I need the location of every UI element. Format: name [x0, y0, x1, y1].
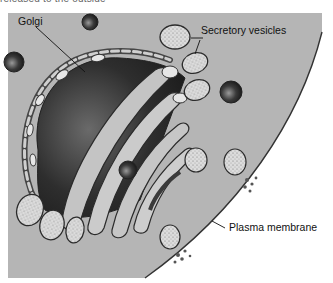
golgi-label: Golgi — [18, 15, 43, 27]
plasma-membrane-label: Plasma membrane — [229, 221, 317, 233]
golgi-illustration — [0, 0, 333, 283]
secretory-vesicles-label: Secretory vesicles — [201, 24, 286, 36]
plasma-membrane-leader-line — [212, 221, 225, 228]
